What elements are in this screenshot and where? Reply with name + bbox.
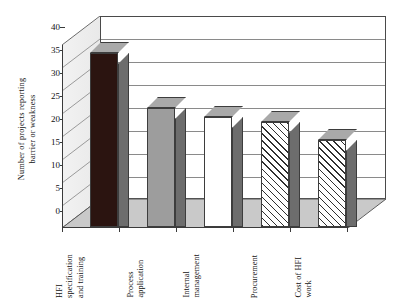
y-tick-20: 20 bbox=[38, 115, 60, 124]
bar-procurement[interactable] bbox=[261, 122, 289, 227]
bar-chart: Number of projects reporting barrier or … bbox=[0, 0, 400, 300]
y-tick-15: 15 bbox=[38, 138, 60, 147]
y-axis-tick-labels: 0 5 10 15 20 25 30 35 40 bbox=[38, 24, 60, 216]
bar-internal-management[interactable] bbox=[204, 117, 232, 227]
x-category-internal-management: Internal management bbox=[182, 255, 203, 298]
y-axis-title: Number of projects reporting barrier or … bbox=[16, 39, 38, 219]
y-tick-30: 30 bbox=[38, 69, 60, 78]
y-tick-35: 35 bbox=[38, 46, 60, 55]
bar-hfi-specification-and-training[interactable] bbox=[90, 53, 118, 227]
y-tick-10: 10 bbox=[38, 161, 60, 170]
x-category-hfi-specification-and-training: HFI specification and training bbox=[55, 254, 86, 298]
y-tick-5: 5 bbox=[38, 184, 60, 193]
x-category-process-application: Process application bbox=[126, 260, 147, 298]
y-tick-25: 25 bbox=[38, 92, 60, 101]
plot-area bbox=[62, 16, 386, 228]
y-tick-0: 0 bbox=[38, 207, 60, 216]
x-category-cost-of-hfi-work: Cost of HFI work bbox=[294, 257, 315, 298]
y-axis-line bbox=[62, 45, 63, 228]
bar-cost-of-hfi-work[interactable] bbox=[318, 140, 346, 227]
x-axis-category-labels: HFI specification and training Process a… bbox=[62, 228, 392, 300]
x-category-procurement: Procurement bbox=[250, 255, 260, 299]
y-tick-40: 40 bbox=[38, 23, 60, 32]
bar-process-application[interactable] bbox=[147, 108, 175, 227]
